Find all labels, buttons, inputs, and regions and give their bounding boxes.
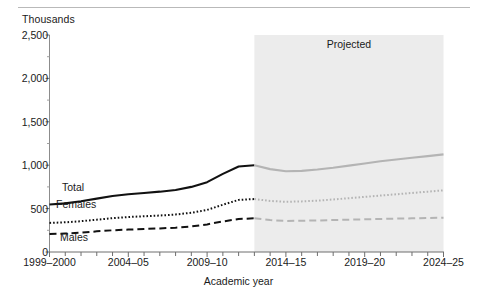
series-label-males: Males	[60, 231, 88, 243]
x-tick-label: 2004–05	[108, 256, 149, 268]
projection-line-chart: Thousands 05001,0001,5002,0002,500 1999–…	[0, 0, 477, 298]
y-tick-label: 500	[4, 203, 48, 215]
y-tick-label: 1,000	[4, 159, 48, 171]
series-label-females: Females	[56, 198, 96, 210]
x-tick-label: 2009–10	[187, 256, 228, 268]
x-tick-label: 2014–15	[265, 256, 306, 268]
y-tick-label: 2,000	[4, 72, 48, 84]
y-axis-unit-label: Thousands	[22, 13, 75, 25]
series-label-total: Total	[62, 181, 84, 193]
x-axis-title: Academic year	[0, 275, 477, 287]
x-tick-label: 1999–2000	[23, 256, 76, 268]
y-tick-label: 1,500	[4, 116, 48, 128]
header-divider-rule	[18, 7, 470, 8]
projected-region-label: Projected	[327, 38, 371, 50]
x-tick-label: 2019–20	[344, 256, 385, 268]
x-tick-label: 2024–25	[423, 256, 464, 268]
y-tick-label: 2,500	[4, 29, 48, 41]
chart-plot-area	[0, 0, 477, 298]
